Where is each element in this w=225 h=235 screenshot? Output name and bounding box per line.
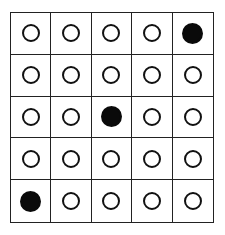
empty-circle-icon	[62, 66, 80, 84]
empty-circle-icon	[143, 192, 161, 210]
empty-circle-icon	[102, 150, 120, 168]
dot-grid	[10, 12, 214, 223]
grid-cell	[51, 180, 91, 222]
empty-circle-icon	[184, 192, 202, 210]
grid-cell	[173, 180, 213, 222]
grid-cell	[132, 180, 172, 222]
grid-cell	[173, 97, 213, 139]
empty-circle-icon	[62, 24, 80, 42]
grid-cell	[132, 97, 172, 139]
empty-circle-icon	[62, 192, 80, 210]
grid-cell	[11, 55, 51, 97]
grid-cell	[173, 138, 213, 180]
grid-cell	[92, 97, 132, 139]
empty-circle-icon	[184, 66, 202, 84]
empty-circle-icon	[22, 150, 40, 168]
empty-circle-icon	[143, 66, 161, 84]
filled-circle-icon	[182, 23, 203, 44]
empty-circle-icon	[22, 108, 40, 126]
empty-circle-icon	[143, 108, 161, 126]
grid-cell	[132, 55, 172, 97]
grid-cell	[51, 55, 91, 97]
grid-cell	[51, 97, 91, 139]
grid-cell	[132, 13, 172, 55]
grid-cell	[92, 138, 132, 180]
empty-circle-icon	[143, 24, 161, 42]
grid-cell	[173, 55, 213, 97]
grid-cell	[92, 180, 132, 222]
grid-cell	[173, 13, 213, 55]
grid-cell	[92, 13, 132, 55]
grid-cell	[11, 138, 51, 180]
grid-cell	[51, 13, 91, 55]
empty-circle-icon	[184, 108, 202, 126]
empty-circle-icon	[102, 66, 120, 84]
empty-circle-icon	[102, 192, 120, 210]
empty-circle-icon	[143, 150, 161, 168]
empty-circle-icon	[62, 150, 80, 168]
filled-circle-icon	[101, 106, 122, 127]
empty-circle-icon	[102, 24, 120, 42]
grid-cell	[92, 55, 132, 97]
empty-circle-icon	[22, 66, 40, 84]
grid-cell	[51, 138, 91, 180]
grid-cell	[11, 13, 51, 55]
empty-circle-icon	[22, 24, 40, 42]
grid-cell	[11, 180, 51, 222]
grid-cell	[11, 97, 51, 139]
empty-circle-icon	[184, 150, 202, 168]
empty-circle-icon	[62, 108, 80, 126]
filled-circle-icon	[20, 191, 41, 212]
grid-cell	[132, 138, 172, 180]
